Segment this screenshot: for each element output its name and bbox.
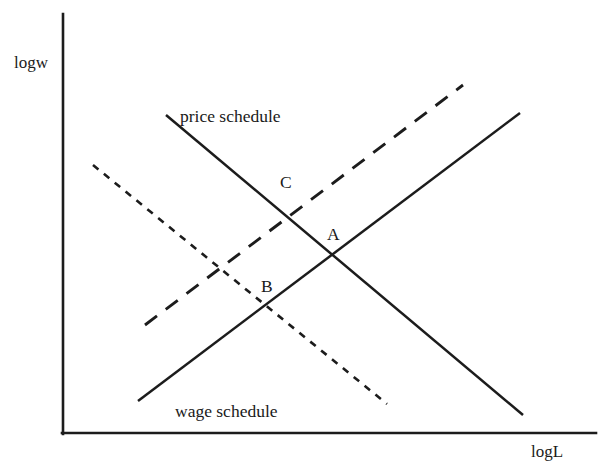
y-axis-label: logw <box>14 54 48 71</box>
point-label-a: A <box>327 226 340 244</box>
wage-schedule-line <box>138 113 520 401</box>
wage-schedule-label: wage schedule <box>175 403 278 421</box>
point-label-c: C <box>280 174 292 192</box>
x-axis-label: logL <box>531 443 563 460</box>
shifted-price-schedule-line <box>93 165 387 404</box>
figure-container: logw logL price schedule wage schedule A… <box>0 0 614 476</box>
point-label-b: B <box>261 278 273 296</box>
price-schedule-label: price schedule <box>180 108 281 126</box>
economics-diagram-canvas <box>0 0 614 476</box>
